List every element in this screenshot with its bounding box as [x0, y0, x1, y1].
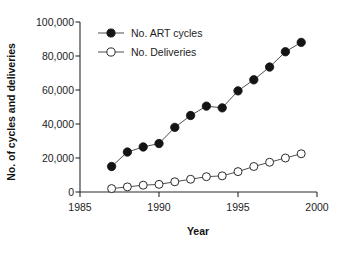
data-point-marker: [218, 172, 226, 180]
data-point-marker: [297, 38, 305, 46]
x-axis-title: Year: [187, 225, 209, 237]
x-tick-marks: [80, 192, 317, 197]
data-point-marker: [155, 139, 163, 147]
data-point-marker: [187, 175, 195, 183]
data-point-marker: [171, 123, 179, 131]
line-chart: No. of cycles and deliveries 100,000 80,…: [0, 0, 338, 254]
x-tick-label: 1990: [147, 201, 171, 213]
y-tick-label: 60,000: [42, 84, 74, 96]
data-point-marker: [234, 87, 242, 95]
x-tick-label: 2000: [305, 201, 329, 213]
data-point-marker: [250, 76, 258, 84]
chart-figure: No. of cycles and deliveries 100,000 80,…: [0, 0, 338, 254]
data-point-marker: [297, 150, 305, 158]
data-point-marker: [250, 163, 258, 171]
x-tick-label: 1995: [226, 201, 250, 213]
data-point-marker: [123, 183, 131, 191]
y-axis-title: No. of cycles and deliveries: [5, 43, 17, 181]
y-tick-label: 40,000: [42, 118, 74, 130]
legend-marker-filled-circle-icon: [107, 29, 115, 37]
legend-label-deliveries: No. Deliveries: [131, 46, 196, 58]
data-point-marker: [281, 48, 289, 56]
data-point-marker: [108, 185, 116, 193]
data-point-marker: [234, 168, 242, 176]
data-point-marker: [218, 104, 226, 112]
data-point-marker: [139, 143, 147, 151]
data-point-marker: [107, 162, 115, 170]
data-point-marker: [202, 173, 210, 181]
data-point-marker: [202, 102, 210, 110]
data-point-marker: [155, 180, 163, 188]
y-tick-label: 20,000: [42, 152, 74, 164]
data-point-marker: [186, 111, 194, 119]
y-tick-label: 0: [68, 186, 74, 198]
chart-legend: No. ART cycles No. Deliveries: [98, 27, 202, 58]
data-point-marker: [171, 178, 179, 186]
y-tick-labels: 100,000 80,000 60,000 40,000 20,000 0: [36, 16, 74, 198]
legend-marker-open-circle-icon: [107, 48, 115, 56]
y-tick-label: 100,000: [36, 16, 74, 28]
data-point-marker: [281, 154, 289, 162]
legend-label-art-cycles: No. ART cycles: [131, 27, 202, 39]
series-art-cycles-markers: [107, 38, 305, 171]
y-tick-label: 80,000: [42, 50, 74, 62]
x-tick-label: 1985: [68, 201, 92, 213]
data-point-marker: [266, 158, 274, 166]
data-point-marker: [265, 63, 273, 71]
y-tick-marks: [76, 22, 81, 192]
x-tick-labels: 1985 1990 1995 2000: [68, 201, 329, 213]
data-point-marker: [139, 181, 147, 189]
data-point-marker: [123, 148, 131, 156]
